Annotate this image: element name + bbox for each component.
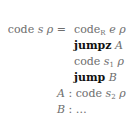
code-function: code: [74, 55, 100, 68]
jump-keyword: jump: [74, 71, 105, 84]
row-jump: jump B: [74, 71, 117, 85]
code-function: code: [76, 87, 102, 100]
equation-lhs: code s ρ =: [8, 23, 66, 37]
label-separator: :: [69, 103, 73, 116]
statement-var: s: [38, 23, 44, 36]
subscript: 1: [110, 61, 114, 69]
row-jumpz: jumpz A: [74, 39, 123, 53]
label-separator: :: [68, 87, 72, 100]
jumpz-keyword: jumpz: [74, 39, 112, 52]
equals-sign: =: [57, 23, 66, 36]
subscript: 2: [111, 93, 115, 101]
row-code-r: codeR e ρ: [74, 23, 126, 40]
jump-target: A: [115, 39, 123, 52]
row-label-a: A : code s2 ρ: [57, 87, 126, 104]
ellipsis: …: [76, 103, 87, 116]
code-function: code: [8, 23, 34, 36]
code-function: code: [74, 23, 100, 36]
row-label-b: B : …: [57, 103, 87, 117]
env-var: ρ: [117, 55, 123, 68]
env-var: ρ: [119, 87, 125, 100]
env-var: ρ: [119, 23, 125, 36]
expr-var: e: [109, 23, 116, 36]
subscript: R: [100, 29, 105, 37]
label-b: B: [57, 103, 65, 116]
env-var: ρ: [47, 23, 53, 36]
jump-target: B: [109, 71, 117, 84]
row-code-s1: code s1 ρ: [74, 55, 124, 72]
label-a: A: [57, 87, 65, 100]
